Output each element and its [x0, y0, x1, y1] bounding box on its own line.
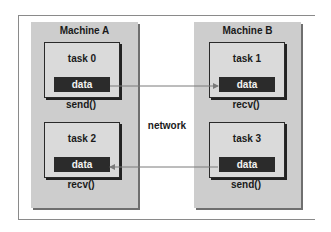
message-arrows — [0, 0, 331, 232]
